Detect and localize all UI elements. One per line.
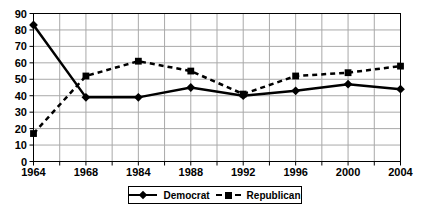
diamond-marker-icon xyxy=(139,191,147,199)
tick-marks xyxy=(30,14,401,166)
svg-text:1996: 1996 xyxy=(283,166,307,178)
svg-text:90: 90 xyxy=(15,8,27,20)
legend-label-democrat: Democrat xyxy=(163,190,209,201)
svg-text:1988: 1988 xyxy=(179,166,203,178)
legend-label-republican: Republican xyxy=(247,190,301,201)
svg-text:10: 10 xyxy=(15,139,27,151)
svg-text:20: 20 xyxy=(15,123,27,135)
svg-text:30: 30 xyxy=(15,106,27,118)
svg-text:70: 70 xyxy=(15,40,27,52)
square-marker-icon xyxy=(225,192,232,199)
legend: Democrat Republican xyxy=(128,186,302,204)
x-axis-labels: 19641968198419881992199620002004 xyxy=(21,166,413,178)
svg-text:2004: 2004 xyxy=(388,166,413,178)
svg-text:1984: 1984 xyxy=(126,166,151,178)
republican-line-sample xyxy=(216,192,241,199)
democrat-line-sample xyxy=(129,191,157,200)
svg-text:1992: 1992 xyxy=(231,166,255,178)
svg-text:1968: 1968 xyxy=(74,166,98,178)
dash-icon xyxy=(235,194,241,197)
svg-text:50: 50 xyxy=(15,73,27,85)
y-axis-labels: 0102030405060708090 xyxy=(15,8,27,168)
legend-item-democrat: Democrat xyxy=(129,190,209,201)
svg-text:1964: 1964 xyxy=(21,166,46,178)
svg-text:2000: 2000 xyxy=(336,166,360,178)
legend-item-republican: Republican xyxy=(216,190,301,201)
plot-area: 0102030405060708090196419681984198819921… xyxy=(0,0,424,210)
svg-text:40: 40 xyxy=(15,90,27,102)
dash-icon xyxy=(216,194,222,197)
svg-text:80: 80 xyxy=(15,24,27,36)
line-chart: 0102030405060708090196419681984198819921… xyxy=(0,0,424,210)
svg-text:60: 60 xyxy=(15,57,27,69)
